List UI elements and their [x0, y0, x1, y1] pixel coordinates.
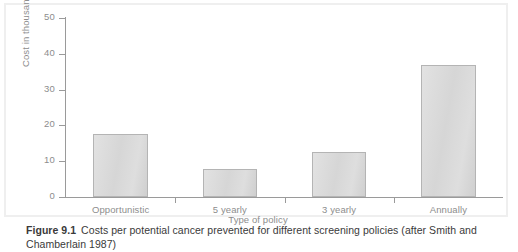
bar-3-yearly[interactable]	[312, 152, 367, 197]
y-axis-title: Cost in thousands	[20, 0, 31, 67]
y-axis-tick-label: 50	[44, 11, 55, 22]
y-axis-tick-label: 10	[44, 154, 55, 165]
y-axis-tick: 50	[59, 18, 65, 19]
y-axis-tick-label: 20	[44, 118, 55, 129]
x-axis-tick	[394, 197, 395, 203]
x-axis-tick	[285, 197, 286, 203]
y-axis-tick: 30	[59, 90, 65, 91]
figure-panel: 01020304050 Opportunistic5 yearly3 yearl…	[0, 0, 518, 222]
figure-number: Figure 9.1	[26, 224, 76, 236]
bar-5-yearly[interactable]	[203, 169, 258, 197]
x-axis-tick	[175, 197, 176, 203]
chart-frame: 01020304050 Opportunistic5 yearly3 yearl…	[4, 3, 508, 217]
bar-annually[interactable]	[421, 65, 476, 197]
figure-caption: Figure 9.1Costs per potential cancer pre…	[26, 224, 500, 251]
y-axis-tick-label: 40	[44, 47, 55, 58]
plot-area	[66, 18, 503, 197]
y-axis-tick: 0	[59, 197, 65, 198]
y-axis-tick: 40	[59, 54, 65, 55]
bar-opportunistic[interactable]	[93, 134, 148, 197]
y-axis-tick-label: 0	[50, 190, 55, 201]
y-axis-tick: 20	[59, 125, 65, 126]
y-axis-tick: 10	[59, 161, 65, 162]
figure-caption-text: Costs per potential cancer prevented for…	[26, 224, 477, 250]
y-axis-tick-label: 30	[44, 83, 55, 94]
